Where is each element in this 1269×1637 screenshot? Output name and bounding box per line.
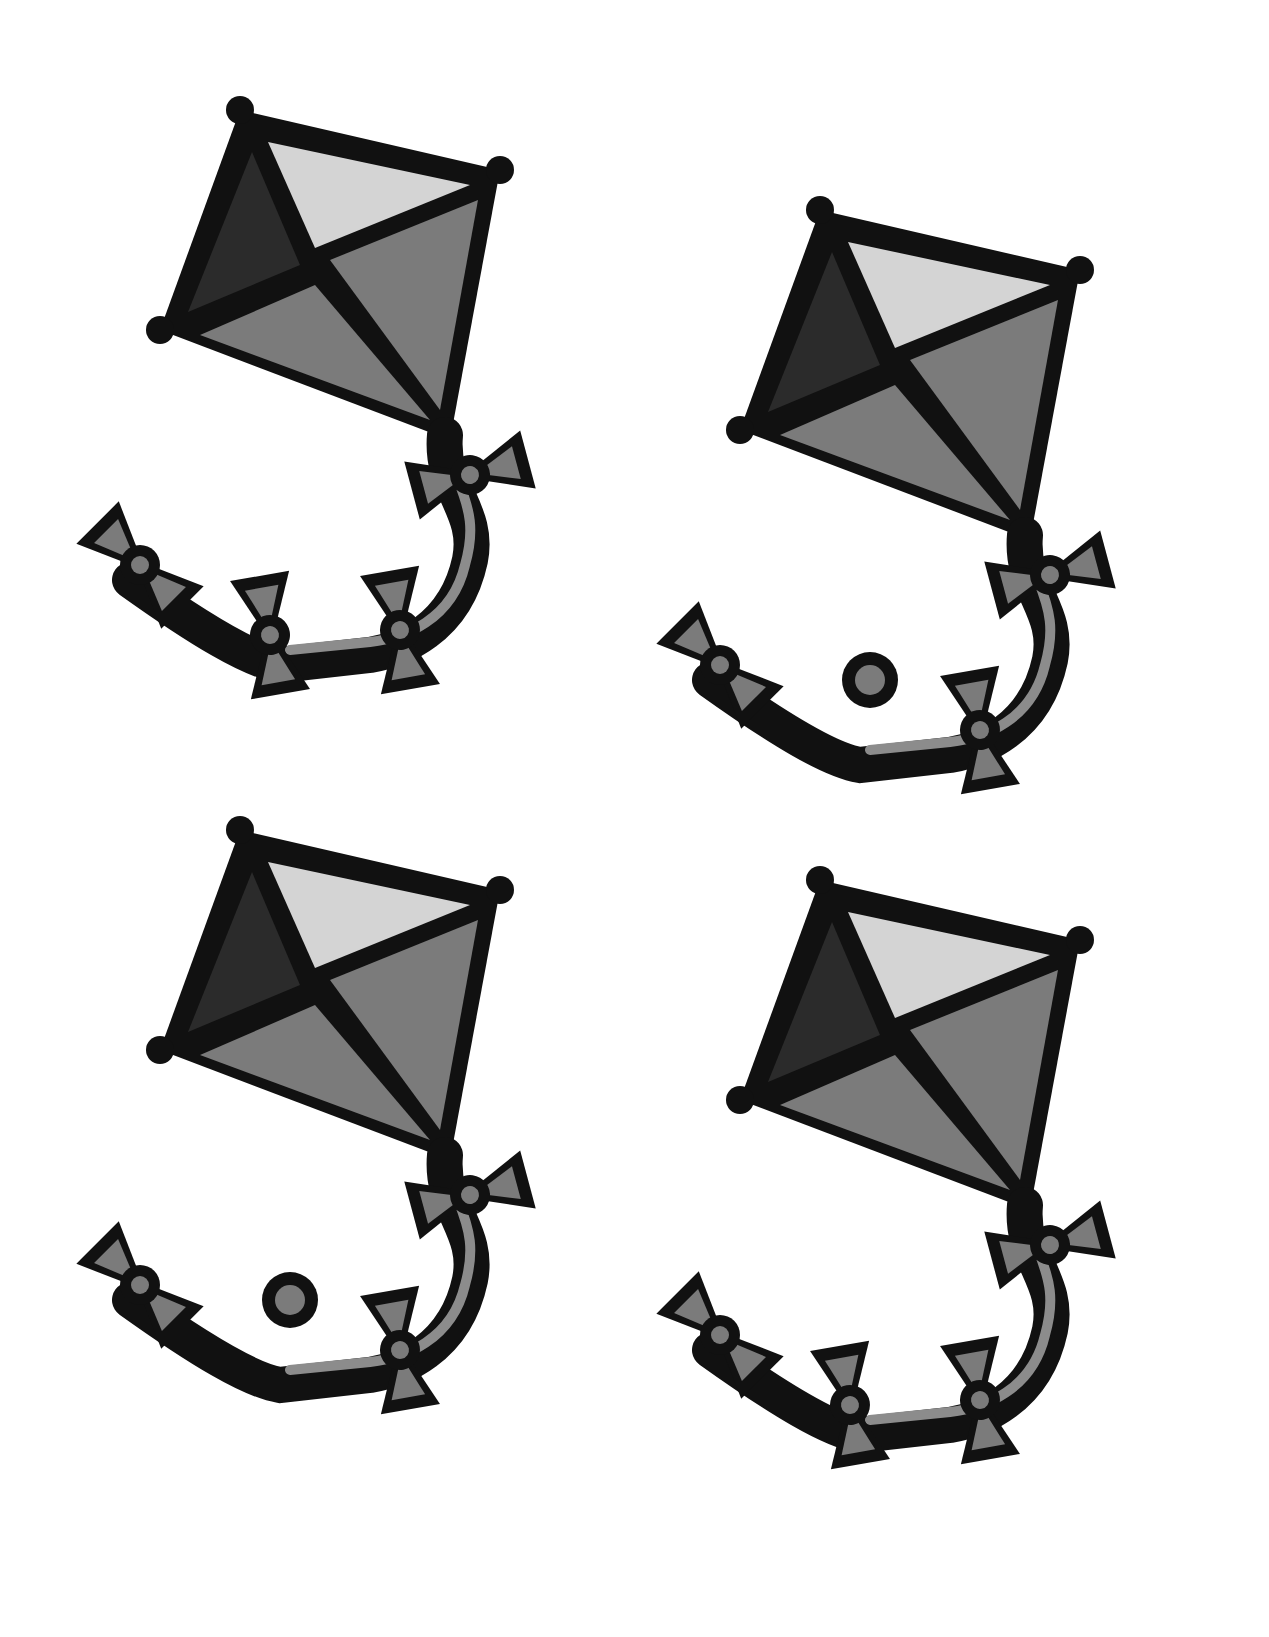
kite-icon <box>720 860 1269 1580</box>
kite-top-left <box>140 90 740 810</box>
kite-icon <box>720 190 1269 910</box>
kite-bottom-left <box>140 810 740 1530</box>
kite-bottom-right <box>720 860 1269 1580</box>
kite-top-right <box>720 190 1269 910</box>
kite-icon <box>140 90 740 810</box>
kite-icon <box>140 810 740 1530</box>
